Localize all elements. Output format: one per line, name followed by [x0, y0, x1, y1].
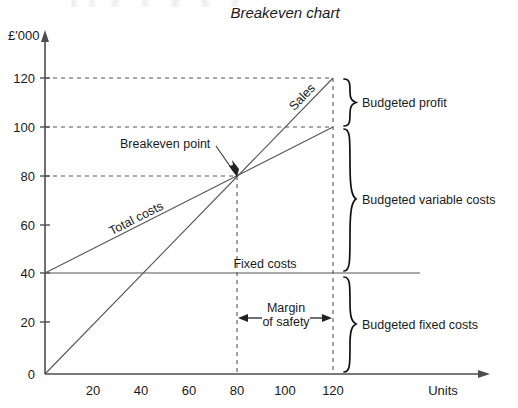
breakeven-point-arrowhead — [229, 160, 239, 177]
budgeted-variable-costs-label: Budgeted variable costs — [362, 193, 495, 207]
margin-of-safety-label-line2: of safety — [262, 315, 310, 329]
x-axis-arrowhead — [478, 370, 490, 378]
margin-of-safety-left-arrowhead — [238, 314, 248, 322]
y-tick-label-20: 20 — [21, 315, 35, 330]
x-tick-label-20: 20 — [86, 383, 100, 398]
breakeven-point-label: Breakeven point — [120, 137, 211, 151]
budgeted-profit-label: Budgeted profit — [362, 96, 447, 110]
x-tick-label-120: 120 — [322, 383, 344, 398]
x-tick-label-40: 40 — [134, 383, 148, 398]
budgeted-fixed-costs-brace — [344, 277, 356, 372]
x-tick-label-80: 80 — [230, 383, 244, 398]
budgeted-variable-costs-brace — [344, 129, 356, 271]
margin-of-safety-right-arrowhead — [322, 314, 332, 322]
y-tick-label-0: 0 — [28, 367, 35, 382]
y-tick-label-60: 60 — [21, 218, 35, 233]
budgeted-profit-brace — [344, 79, 356, 126]
breakeven-chart-page: Breakeven chart £'000 120 100 80 60 40 2… — [0, 0, 518, 408]
y-tick-label-80: 80 — [21, 169, 35, 184]
breakeven-chart-figure: Breakeven chart £'000 120 100 80 60 40 2… — [0, 0, 518, 408]
x-tick-label-100: 100 — [274, 383, 296, 398]
sales-line-label: Sales — [286, 81, 318, 113]
chart-title: Breakeven chart — [230, 4, 340, 21]
x-axis-unit-label: Units — [428, 383, 458, 398]
x-tick-label-60: 60 — [182, 383, 196, 398]
y-tick-label-40: 40 — [21, 266, 35, 281]
margin-of-safety-label-line1: Margin — [267, 301, 305, 315]
budgeted-fixed-costs-label: Budgeted fixed costs — [362, 318, 478, 332]
y-axis-arrowhead — [41, 30, 49, 42]
y-axis-unit-label: £'000 — [8, 28, 39, 43]
fixed-costs-line-label: Fixed costs — [233, 257, 296, 271]
y-tick-label-120: 120 — [13, 71, 35, 86]
y-tick-label-100: 100 — [13, 120, 35, 135]
total-costs-line-label: Total costs — [107, 199, 166, 238]
sales-line — [45, 78, 333, 374]
